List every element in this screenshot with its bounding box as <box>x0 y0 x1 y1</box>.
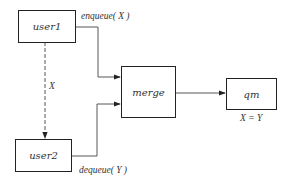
edge-user1-merge <box>76 27 120 77</box>
node-qm-label: qm <box>244 89 260 100</box>
edge-user2-merge <box>72 104 120 156</box>
node-merge-label: merge <box>132 87 165 98</box>
node-user2: user2 <box>15 139 72 172</box>
node-user1: user1 <box>18 10 76 43</box>
node-merge: merge <box>121 66 176 118</box>
edge-label-dequeue: dequeue( Y ) <box>79 165 127 175</box>
node-qm: qm <box>226 78 277 110</box>
edge-label-x: X <box>49 81 55 91</box>
node-user1-label: user1 <box>33 21 62 32</box>
qm-condition-label: X = Y <box>240 113 262 123</box>
node-user2-label: user2 <box>29 150 58 161</box>
edge-label-enqueue: enqueue( X ) <box>81 11 130 21</box>
